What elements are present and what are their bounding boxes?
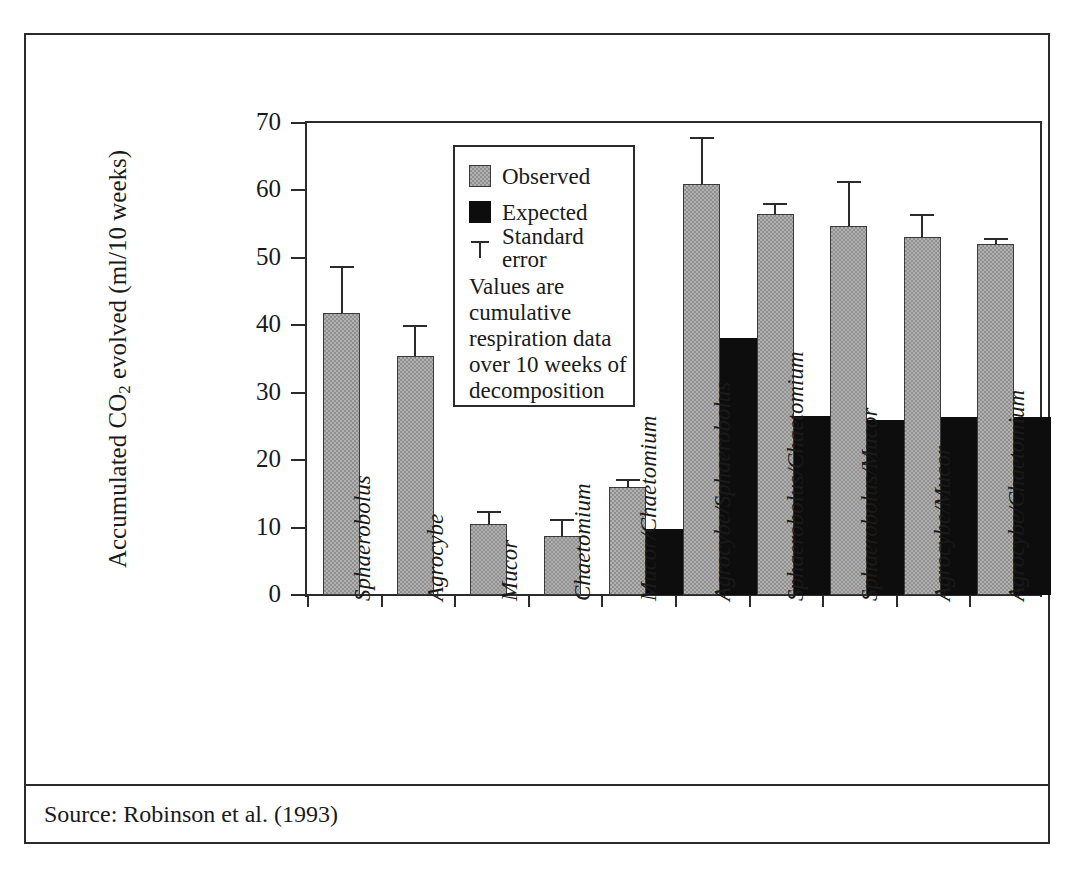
error-bar-stem <box>627 481 629 487</box>
error-bar-cap <box>330 266 354 268</box>
y-tick-label-30: 30 <box>221 379 281 404</box>
legend-note: Values are cumulative respiration data o… <box>469 274 633 404</box>
y-tick-60 <box>291 189 305 191</box>
y-tick-70 <box>291 122 305 124</box>
y-tick-label-70: 70 <box>221 109 281 134</box>
error-bar-cap <box>690 137 714 139</box>
error-bar-stem <box>701 139 703 184</box>
legend-item-observed: Observed <box>469 159 633 193</box>
error-bar-stem <box>995 240 997 244</box>
y-tick-label-20: 20 <box>221 446 281 471</box>
error-bar-cap <box>763 203 787 205</box>
x-axis-label: Agrocybe/Sphaerobolus <box>711 382 734 601</box>
x-axis-label: Mucor <box>498 540 521 601</box>
error-bar-stem <box>561 521 563 536</box>
x-axis-label: Agrocybe <box>424 514 447 601</box>
error-bar-stem <box>488 513 490 524</box>
y-tick-label-60: 60 <box>221 176 281 201</box>
y-tick-50 <box>291 257 305 259</box>
source-divider <box>26 784 1048 786</box>
x-axis-label: Sphaerobolus/Chaetomium <box>784 351 807 601</box>
x-axis-label: Chaetomium <box>571 483 594 601</box>
y-tick-20 <box>291 459 305 461</box>
y-tick-40 <box>291 324 305 326</box>
source-text: Source: Robinson et al. (1993) <box>44 801 338 828</box>
y-axis-title-prefix: Accumulated CO <box>104 394 131 568</box>
y-tick-30 <box>291 392 305 394</box>
y-tick-label-10: 10 <box>221 514 281 539</box>
error-bar-stem <box>921 216 923 237</box>
error-bar-cap <box>403 325 427 327</box>
error-bar-stem <box>774 205 776 214</box>
error-bar-icon <box>469 237 491 259</box>
x-axis-label: Agrocybe/Mucor <box>931 446 954 601</box>
y-axis-ticks: 010203040506070 <box>26 35 291 874</box>
error-bar-cap <box>984 238 1008 240</box>
error-bar-cap <box>910 214 934 216</box>
error-bar-cap <box>477 511 501 513</box>
figure-outer-frame: 010203040506070 Accumulated CO2 evolved … <box>24 33 1050 844</box>
error-bar-cap <box>837 181 861 183</box>
legend-label-standard-error: Standard error <box>502 225 633 271</box>
x-axis-label: Sphaerobolus/Mucor <box>858 408 881 601</box>
legend-label-observed: Observed <box>502 165 590 188</box>
y-tick-label-0: 0 <box>221 581 281 606</box>
legend: Observed Expected Standard error Values … <box>453 145 635 407</box>
error-bar-stem <box>848 183 850 225</box>
y-tick-0 <box>291 594 305 596</box>
observed-swatch-icon <box>469 165 491 187</box>
y-tick-label-40: 40 <box>221 311 281 336</box>
legend-item-standard-error: Standard error <box>469 231 633 265</box>
x-axis-label: Sphaerobolus <box>351 475 374 601</box>
expected-swatch-icon <box>469 201 491 223</box>
y-axis-title-subscript: 2 <box>115 385 134 394</box>
y-axis-title: Accumulated CO2 evolved (ml/10 weeks) <box>104 149 132 569</box>
error-bar-stem <box>414 327 416 356</box>
y-tick-10 <box>291 527 305 529</box>
y-tick-label-50: 50 <box>221 244 281 269</box>
y-axis-title-suffix: evolved (ml/10 weeks) <box>104 150 131 385</box>
x-axis-label: Mucor/Chaetomium <box>637 416 660 601</box>
error-bar-stem <box>341 268 343 313</box>
x-axis-label: Agrocybe/Chaetomium <box>1005 390 1028 601</box>
x-axis-labels: SphaerobolusAgrocybeMucorChaetomiumMucor… <box>305 601 1041 861</box>
figure-caption-strip <box>0 0 1068 14</box>
legend-label-expected: Expected <box>502 201 588 224</box>
